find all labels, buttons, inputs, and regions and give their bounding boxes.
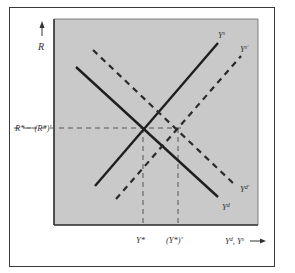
r-axis-arrow-icon: [40, 21, 45, 28]
r-axis-label: R: [37, 41, 44, 52]
r-star-label: R* = (R*)′: [14, 123, 52, 133]
economics-diagram: R R* = (R*)′ Y* (Y*)′ Yd, Ys Ys Ys′ Yd Y…: [0, 0, 295, 273]
plot-area: [54, 19, 258, 225]
y-star-label: Y*: [136, 235, 146, 245]
y-star-prime-label: (Y*)′: [166, 235, 183, 245]
x-axis-label: Yd, Ys: [225, 236, 245, 246]
x-axis-arrow-icon: [260, 239, 266, 244]
